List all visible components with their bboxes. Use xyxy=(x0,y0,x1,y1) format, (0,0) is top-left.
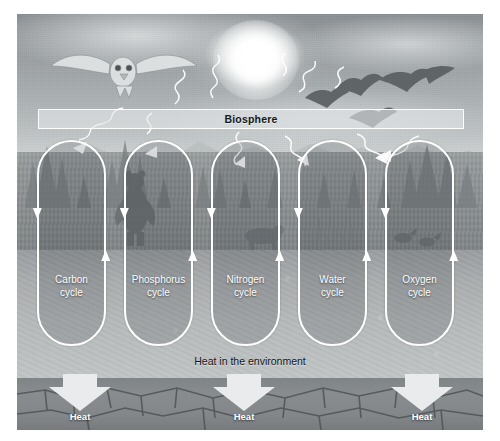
up-arrow-icon-water xyxy=(362,250,371,261)
cycle-label-water-line1: Water xyxy=(319,274,345,285)
cycle-pill-oxygen[interactable]: Oxygen cycle xyxy=(385,140,454,346)
cycle-label-water-line2: cycle xyxy=(300,287,365,300)
heat-label-1: Heat xyxy=(45,411,115,422)
down-arrow-icon-phosphorus xyxy=(120,208,129,219)
heat-label-3: Heat xyxy=(387,411,457,422)
cycle-pill-carbon[interactable]: Carbon cycle xyxy=(37,140,106,346)
cycle-label-carbon: Carbon cycle xyxy=(39,274,104,299)
heat-arrow-3-head xyxy=(391,387,453,411)
cycle-label-oxygen: Oxygen cycle xyxy=(387,274,452,299)
down-arrow-icon-oxygen xyxy=(381,208,390,219)
cycle-label-phosphorus: Phosphorus cycle xyxy=(126,274,191,299)
down-arrow-icon-water xyxy=(294,208,303,219)
heat-arrow-2-shaft xyxy=(227,374,261,388)
cycle-pill-water[interactable]: Water cycle xyxy=(298,140,367,346)
up-arrow-icon-nitrogen xyxy=(275,250,284,261)
down-arrow-icon-nitrogen xyxy=(207,208,216,219)
cycle-label-carbon-line1: Carbon xyxy=(55,274,88,285)
heat-arrow-3-shaft xyxy=(405,374,439,388)
screenshot-canvas: Biosphere Carbon cycle Phosphorus cycle xyxy=(0,0,500,441)
heat-arrow-1-shaft xyxy=(63,374,97,388)
down-arrow-icon-carbon xyxy=(33,208,42,219)
cycle-label-oxygen-line2: cycle xyxy=(387,287,452,300)
cycle-label-nitrogen-line2: cycle xyxy=(213,287,278,300)
cycle-pill-group: Carbon cycle Phosphorus cycle Nitrogen c… xyxy=(17,14,483,430)
heat-arrow-3: Heat xyxy=(391,374,453,416)
up-arrow-icon-phosphorus xyxy=(188,250,197,261)
cycle-label-carbon-line2: cycle xyxy=(39,287,104,300)
heat-arrow-2: Heat xyxy=(213,374,275,416)
cycle-label-nitrogen-line1: Nitrogen xyxy=(227,274,265,285)
cycle-label-phosphorus-line2: cycle xyxy=(126,287,191,300)
up-arrow-icon-carbon xyxy=(101,250,110,261)
heat-arrow-1: Heat xyxy=(49,374,111,416)
cycle-pill-nitrogen[interactable]: Nitrogen cycle xyxy=(211,140,280,346)
diagram-figure: Biosphere Carbon cycle Phosphorus cycle xyxy=(17,14,483,430)
heat-in-environment-label: Heat in the environment xyxy=(17,355,483,367)
cycle-label-nitrogen: Nitrogen cycle xyxy=(213,274,278,299)
cycle-label-oxygen-line1: Oxygen xyxy=(402,274,436,285)
cycle-pill-phosphorus[interactable]: Phosphorus cycle xyxy=(124,140,193,346)
up-arrow-icon-oxygen xyxy=(449,250,458,261)
heat-arrow-1-head xyxy=(49,387,111,411)
cycle-label-water: Water cycle xyxy=(300,274,365,299)
heat-label-2: Heat xyxy=(209,411,279,422)
heat-arrow-2-head xyxy=(213,387,275,411)
cycle-label-phosphorus-line1: Phosphorus xyxy=(132,274,185,285)
